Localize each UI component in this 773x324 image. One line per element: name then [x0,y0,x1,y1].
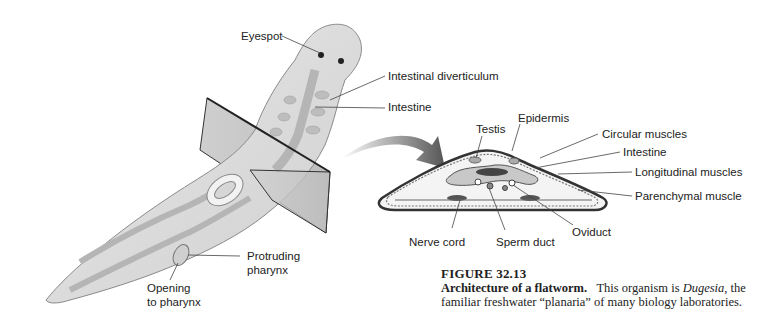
caption-text-1: This organism is [596,281,682,295]
caption-text-2: , the [724,281,746,295]
figure-number: FIGURE 32.13 [441,266,526,282]
label-protruding-pharynx-1: Protruding [247,250,300,263]
label-intestinal-diverticulum: Intestinal diverticulum [388,70,499,83]
label-oviduct: Oviduct [572,226,611,239]
label-longitudinal-muscles: Longitudinal muscles [635,166,742,179]
label-circular-muscles: Circular muscles [602,128,687,141]
diverticulum [284,96,296,104]
diverticulum [306,126,320,134]
whole-worm [46,24,361,303]
label-parenchymal-muscle: Parenchymal muscle [635,190,742,203]
oviduct-right [509,180,515,186]
intestine-lumen [476,168,508,176]
figure-title: Architecture of a flatworm. [441,281,587,295]
figure-caption-line1: Architecture of a flatworm. This organis… [441,281,746,295]
oviduct-left [503,186,508,191]
sperm-duct-right [487,183,493,189]
leader-circular-muscles [540,134,598,158]
diverticulum [270,128,282,136]
eyespot-right [338,58,344,64]
label-opening-2: to pharynx [147,296,201,309]
label-intestine: Intestine [388,101,431,114]
diverticulum [278,113,290,121]
diverticulum [315,91,329,99]
label-intestine-section: Intestine [623,146,666,159]
caption-genus: Dugesia [683,281,725,295]
label-epidermis: Epidermis [518,112,569,125]
label-nerve-cord: Nerve cord [409,236,465,249]
label-testis: Testis [476,123,505,136]
figure-caption-line2: familiar freshwater “planaria” of many b… [441,295,742,309]
label-protruding-pharynx-2: pharynx [247,264,288,277]
leader-epidermis [512,124,520,151]
sperm-duct-left [475,179,481,185]
flatworm-diagram [0,0,773,324]
label-opening-1: Opening [147,282,190,295]
label-eyespot: Eyespot [241,30,283,43]
curved-arrow [340,136,445,168]
leader-longitudinal-muscles [558,172,632,174]
label-sperm-duct: Sperm duct [496,236,555,249]
diverticulum [311,108,325,116]
testis-left [469,157,481,163]
testis-right [509,158,519,164]
cross-section [379,150,607,210]
